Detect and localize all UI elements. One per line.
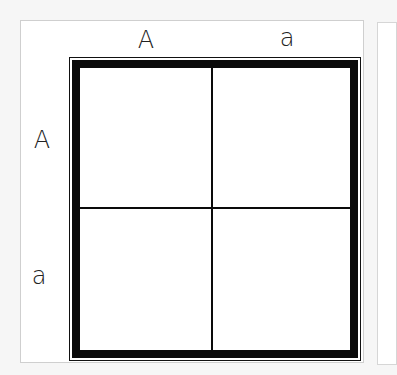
punnett-cell-top-left <box>80 68 213 209</box>
column-header-allele-2: a <box>272 26 302 50</box>
row-header-allele-2: a <box>24 264 54 288</box>
column-header-allele-1: A <box>131 28 161 52</box>
punnett-cell-bottom-right <box>213 209 350 350</box>
row-header-allele-1: A <box>27 128 57 152</box>
punnett-cell-top-right <box>213 68 350 209</box>
adjacent-panel-edge <box>377 22 397 365</box>
punnett-grid <box>80 68 350 350</box>
punnett-cell-bottom-left <box>80 209 213 350</box>
